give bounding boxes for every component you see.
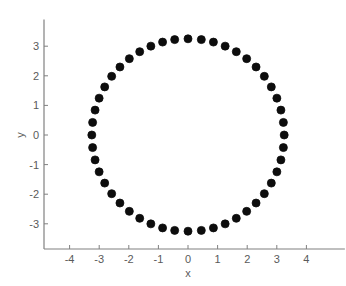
scatter-marker	[159, 224, 167, 232]
scatter-marker	[108, 190, 116, 198]
scatter-marker	[197, 36, 205, 44]
scatter-marker	[116, 63, 124, 71]
scatter-marker	[88, 131, 96, 139]
scatter-marker	[260, 72, 268, 80]
y-tick-label: -3	[29, 218, 39, 229]
scatter-marker	[197, 226, 205, 234]
scatter-marker	[243, 207, 251, 215]
x-axis-label: x	[185, 268, 191, 279]
scatter-marker	[125, 207, 133, 215]
x-tick-label: 3	[274, 254, 280, 265]
y-axis-label: y	[15, 132, 26, 138]
scatter-marker	[221, 220, 229, 228]
x-tick-label: 4	[303, 254, 309, 265]
x-tick-label: 0	[185, 254, 191, 265]
scatter-marker	[101, 179, 109, 187]
figure-container: -4-3-2-101234-3-2-10123 x y	[0, 0, 346, 286]
scatter-marker	[209, 38, 217, 46]
scatter-marker	[147, 220, 155, 228]
scatter-marker	[136, 214, 144, 222]
scatter-marker	[243, 55, 251, 63]
scatter-marker	[232, 48, 240, 56]
scatter-marker	[260, 190, 268, 198]
y-tick-label: -2	[29, 189, 39, 200]
x-tick-label: 2	[244, 254, 250, 265]
scatter-marker	[147, 42, 155, 50]
x-tick-label: -4	[65, 254, 75, 265]
scatter-marker	[91, 106, 99, 114]
scatter-marker	[125, 55, 133, 63]
y-tick-label: 2	[33, 70, 39, 81]
scatter-marker	[277, 106, 285, 114]
scatter-marker	[277, 156, 285, 164]
scatter-marker	[209, 224, 217, 232]
scatter-marker	[252, 63, 260, 71]
scatter-marker	[232, 214, 240, 222]
scatter-marker	[159, 38, 167, 46]
x-tick-label: -3	[94, 254, 104, 265]
x-tick-label: -1	[154, 254, 164, 265]
scatter-marker	[279, 144, 287, 152]
scatter-marker	[221, 42, 229, 50]
scatter-marker	[184, 227, 192, 235]
y-tick-label: 1	[33, 100, 39, 111]
scatter-marker	[171, 226, 179, 234]
scatter-marker	[273, 94, 281, 102]
scatter-marker	[280, 131, 288, 139]
scatter-marker	[273, 168, 281, 176]
scatter-marker	[267, 83, 275, 91]
scatter-marker	[184, 35, 192, 43]
scatter-marker	[95, 168, 103, 176]
scatter-data-points	[88, 35, 288, 235]
scatter-marker	[108, 72, 116, 80]
y-tick-label: 3	[33, 41, 39, 52]
scatter-marker	[136, 48, 144, 56]
y-tick-label: -1	[29, 159, 39, 170]
scatter-marker	[171, 36, 179, 44]
x-tick-label: 1	[215, 254, 221, 265]
x-tick-label: -2	[124, 254, 134, 265]
scatter-marker	[252, 199, 260, 207]
scatter-marker	[91, 156, 99, 164]
scatter-marker	[95, 94, 103, 102]
scatter-marker	[101, 83, 109, 91]
y-tick-label: 0	[33, 130, 39, 141]
scatter-marker	[279, 118, 287, 126]
scatter-marker	[89, 144, 97, 152]
scatter-marker	[267, 179, 275, 187]
scatter-marker	[89, 118, 97, 126]
scatter-marker	[116, 199, 124, 207]
plot-canvas	[0, 0, 346, 286]
